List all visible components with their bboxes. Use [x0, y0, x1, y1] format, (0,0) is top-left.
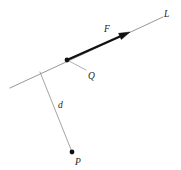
- force-moment-diagram: L F Q d P: [0, 0, 181, 170]
- label-point-q: Q: [88, 71, 95, 81]
- label-point-p: P: [74, 157, 81, 167]
- label-line-l: L: [163, 9, 169, 19]
- label-distance-d: d: [58, 100, 63, 110]
- point-q-marker: [65, 58, 70, 63]
- point-p-marker: [70, 150, 75, 155]
- diagram-canvas: L F Q d P: [0, 0, 181, 170]
- label-force-f: F: [103, 24, 110, 34]
- diagram-background: [0, 0, 181, 170]
